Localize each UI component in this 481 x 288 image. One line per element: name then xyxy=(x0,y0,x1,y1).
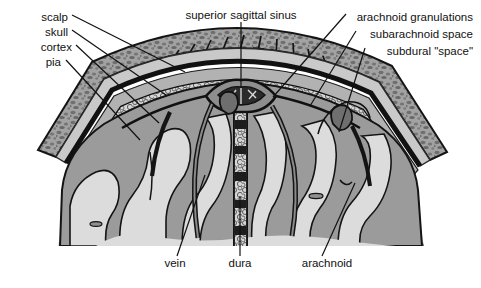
label-skull: skull xyxy=(45,27,68,39)
label-scalp: scalp xyxy=(41,12,68,24)
label-superior-sagittal-sinus: superior sagittal sinus xyxy=(185,10,296,22)
figure-canvas: scalp skull cortex pia superior sagittal… xyxy=(0,0,481,288)
label-pia: pia xyxy=(46,57,61,69)
label-subarachnoid-space: subarachnoid space xyxy=(370,29,473,41)
anatomy-illustration xyxy=(0,0,481,288)
label-dura: dura xyxy=(228,258,251,270)
label-vein: vein xyxy=(164,258,185,270)
label-cortex: cortex xyxy=(41,42,72,54)
label-arachnoid: arachnoid xyxy=(302,258,353,270)
label-subdural-space: subdural "space" xyxy=(387,46,473,58)
label-arachnoid-granulations: arachnoid granulations xyxy=(357,12,473,24)
